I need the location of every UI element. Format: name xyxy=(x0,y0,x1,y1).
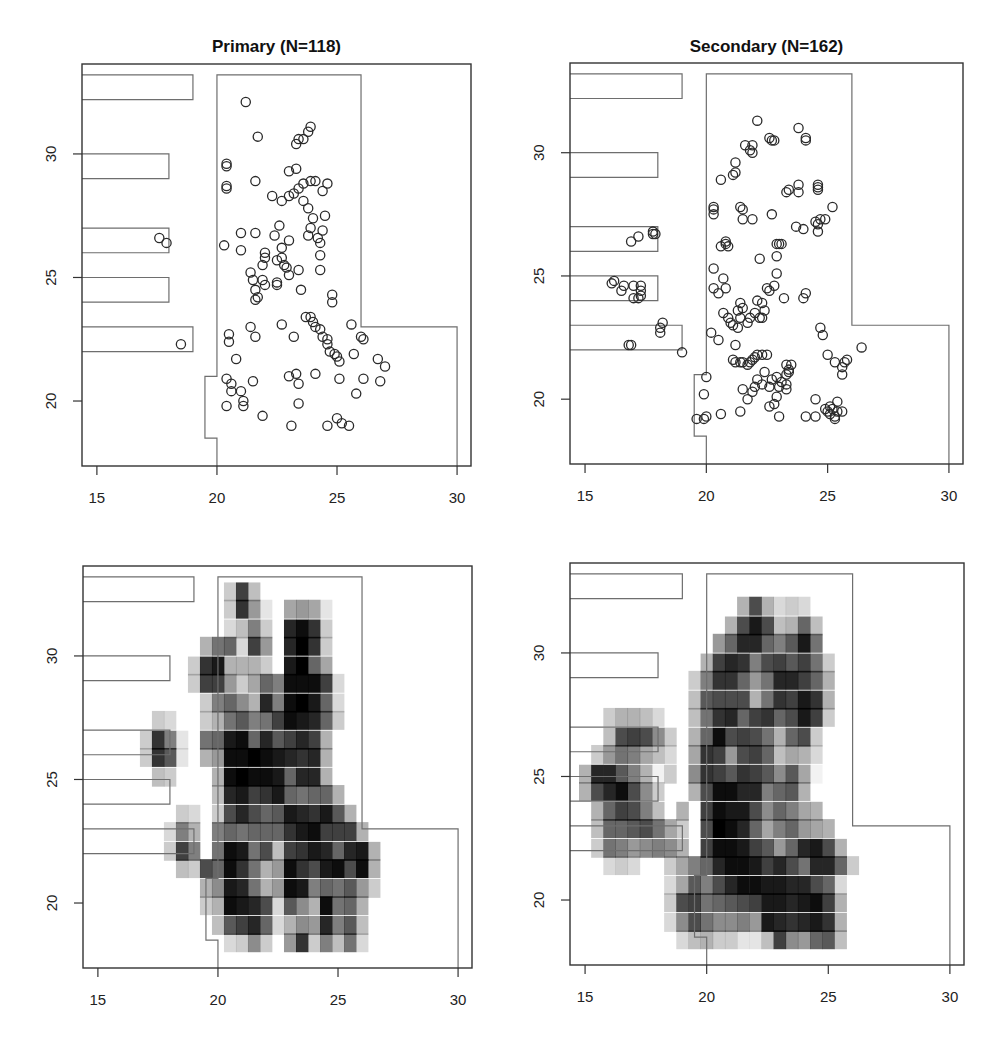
density-cell xyxy=(737,634,750,653)
density-cell xyxy=(822,893,835,912)
density-cell xyxy=(798,893,811,912)
density-cell xyxy=(737,876,750,895)
y-tick-label: 25 xyxy=(530,768,547,785)
density-cell xyxy=(749,708,762,727)
density-cell xyxy=(664,765,677,784)
density-cell xyxy=(786,930,799,949)
density-cell xyxy=(628,708,641,727)
density-cell xyxy=(652,839,665,858)
density-cell xyxy=(628,856,641,875)
density-cell xyxy=(761,745,774,764)
density-cell xyxy=(713,708,726,727)
density-cell xyxy=(810,616,823,635)
density-cell xyxy=(725,671,738,690)
density-cell xyxy=(834,893,847,912)
density-cell xyxy=(786,691,799,710)
density-cell xyxy=(664,893,677,912)
density-cell xyxy=(774,708,787,727)
density-cell xyxy=(774,802,787,821)
density-cell xyxy=(676,930,689,949)
x-tick-label: 20 xyxy=(698,988,715,1005)
density-cell xyxy=(798,708,811,727)
density-cell xyxy=(749,765,762,784)
density-cell xyxy=(737,893,750,912)
density-cell xyxy=(640,728,653,747)
density-cell xyxy=(603,856,616,875)
density-cell xyxy=(774,839,787,858)
density-cell xyxy=(628,819,641,838)
density-cell xyxy=(603,708,616,727)
density-cell xyxy=(603,839,616,858)
density-cell xyxy=(737,654,750,673)
density-cell xyxy=(774,597,787,616)
density-cell xyxy=(834,839,847,858)
density-cell xyxy=(603,819,616,838)
density-cell xyxy=(810,802,823,821)
density-cell xyxy=(737,802,750,821)
density-cell xyxy=(749,597,762,616)
density-cell xyxy=(798,597,811,616)
density-cell xyxy=(786,634,799,653)
density-cell xyxy=(749,893,762,912)
density-cell xyxy=(640,745,653,764)
density-cell xyxy=(774,671,787,690)
density-cell xyxy=(725,745,738,764)
density-cell xyxy=(701,893,714,912)
density-cell xyxy=(591,782,604,801)
density-cell xyxy=(810,634,823,653)
density-cell xyxy=(737,616,750,635)
density-cell xyxy=(798,802,811,821)
density-cell xyxy=(798,913,811,932)
density-cell xyxy=(713,839,726,858)
density-cell xyxy=(615,856,628,875)
density-cell xyxy=(786,728,799,747)
density-cell xyxy=(749,819,762,838)
density-cell xyxy=(847,856,860,875)
density-cell xyxy=(761,856,774,875)
density-cell xyxy=(749,671,762,690)
density-cell xyxy=(688,856,701,875)
density-cell xyxy=(701,913,714,932)
density-cells xyxy=(579,597,859,949)
density-cell xyxy=(737,708,750,727)
density-cell xyxy=(749,802,762,821)
density-cell xyxy=(615,765,628,784)
density-cell xyxy=(774,616,787,635)
x-tick-label: 15 xyxy=(577,988,594,1005)
density-cell xyxy=(749,930,762,949)
density-cell xyxy=(798,765,811,784)
density-cell xyxy=(640,782,653,801)
density-cell xyxy=(713,893,726,912)
density-cell xyxy=(810,819,823,838)
density-cell xyxy=(713,654,726,673)
density-cell xyxy=(810,708,823,727)
density-cell xyxy=(737,728,750,747)
density-cell xyxy=(664,839,677,858)
density-cell xyxy=(615,819,628,838)
density-cell xyxy=(822,671,835,690)
density-cell xyxy=(834,913,847,932)
density-cell xyxy=(822,856,835,875)
density-cell xyxy=(810,654,823,673)
density-cell xyxy=(725,819,738,838)
y-axis: 202530 xyxy=(530,645,570,909)
density-cell xyxy=(786,913,799,932)
density-cell xyxy=(810,876,823,895)
density-cell xyxy=(822,691,835,710)
density-cell xyxy=(725,616,738,635)
density-cell xyxy=(822,930,835,949)
density-cell xyxy=(834,930,847,949)
density-cell xyxy=(798,856,811,875)
density-cell xyxy=(737,930,750,949)
density-cell xyxy=(713,930,726,949)
density-cell xyxy=(749,745,762,764)
density-cell xyxy=(761,728,774,747)
density-cell xyxy=(774,819,787,838)
bay-outline xyxy=(570,653,658,678)
density-cell xyxy=(688,765,701,784)
density-cell xyxy=(749,691,762,710)
density-cell xyxy=(786,597,799,616)
density-cell xyxy=(713,745,726,764)
density-cell xyxy=(761,708,774,727)
density-cell xyxy=(810,728,823,747)
